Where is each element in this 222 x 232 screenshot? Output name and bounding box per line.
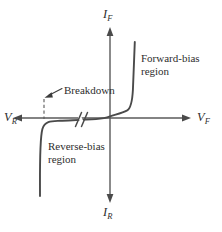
diode-characteristic-curve — [40, 42, 135, 196]
axis-label-forward-voltage-subscript: F — [205, 116, 210, 126]
forward-bias-region-label: Forward-bias region — [141, 52, 203, 78]
axis-label-forward-current: IF — [103, 7, 112, 23]
axis-label-forward-current-subscript: F — [107, 13, 112, 23]
voltage-axis-right-arrowhead — [182, 115, 191, 122]
reverse-bias-region-label: Reverse-bias region — [48, 140, 114, 166]
current-axis-up-arrowhead — [107, 27, 114, 36]
current-axis-down-arrowhead — [107, 194, 114, 203]
axis-label-reverse-current-subscript: R — [107, 211, 112, 221]
axis-label-reverse-voltage-subscript: R — [12, 116, 17, 126]
breakdown-leader-arrowhead — [45, 92, 53, 98]
iv-curve-canvas — [0, 0, 222, 232]
axis-label-reverse-voltage-symbol: V — [4, 110, 12, 124]
axis-label-reverse-current: IR — [103, 205, 112, 221]
breakdown-annotation-label: Breakdown — [64, 84, 115, 97]
axis-label-reverse-voltage: VR — [4, 110, 17, 126]
axis-label-forward-voltage-symbol: V — [197, 110, 205, 124]
diode-iv-characteristic-figure: IF IR VR VF Breakdown Forward-bias regio… — [0, 0, 222, 232]
axis-label-forward-voltage: VF — [197, 110, 210, 126]
